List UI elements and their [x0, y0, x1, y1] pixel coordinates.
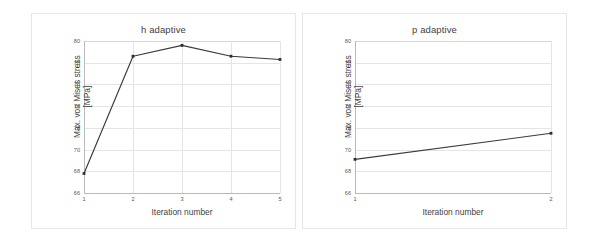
- plot-area: 6668707274767880 12 Iteration number Max…: [355, 41, 551, 193]
- series-line: [84, 45, 280, 173]
- x-tick-label: 1: [353, 196, 356, 202]
- x-tick-label: 3: [180, 196, 183, 202]
- chart-panel-h-adaptive: h adaptive 6668707274767880 12345 Iterat…: [31, 13, 296, 229]
- series-h-adaptive: [84, 41, 280, 193]
- data-point-marker: [83, 172, 86, 175]
- x-axis-title: Iteration number: [84, 207, 280, 217]
- series-line: [355, 133, 551, 159]
- chart-title: h adaptive: [32, 24, 295, 35]
- data-point-marker: [230, 55, 233, 58]
- y-axis-title-line-2: [MPa]: [83, 22, 93, 172]
- y-gridline: 66: [355, 193, 551, 194]
- x-tick-label: 4: [229, 196, 232, 202]
- data-point-marker: [181, 44, 184, 47]
- chart-panel-p-adaptive: p adaptive 6668707274767880 12 Iteration…: [302, 13, 567, 229]
- x-tick-label: 5: [278, 196, 281, 202]
- x-gridline: 5: [280, 41, 281, 193]
- x-gridline: 2: [551, 41, 552, 193]
- y-axis-title: Max. von Mises stress [MPa]: [73, 22, 92, 172]
- y-tick-label: 66: [345, 190, 351, 196]
- x-tick-label: 2: [131, 196, 134, 202]
- data-point-marker: [132, 55, 135, 58]
- data-point-marker: [279, 58, 282, 61]
- data-point-marker: [550, 132, 553, 135]
- figure-root: h adaptive 6668707274767880 12345 Iterat…: [0, 0, 598, 242]
- y-tick-label: 66: [74, 190, 80, 196]
- series-p-adaptive: [355, 41, 551, 193]
- x-axis-title: Iteration number: [355, 207, 551, 217]
- x-tick-label: 1: [82, 196, 85, 202]
- x-tick-label: 2: [549, 196, 552, 202]
- y-axis-title: Max. von Mises stress [MPa]: [344, 22, 363, 172]
- plot-area: 6668707274767880 12345 Iteration number …: [84, 41, 280, 193]
- chart-title: p adaptive: [303, 24, 566, 35]
- y-axis-title-line-2: [MPa]: [354, 22, 364, 172]
- y-gridline: 66: [84, 193, 280, 194]
